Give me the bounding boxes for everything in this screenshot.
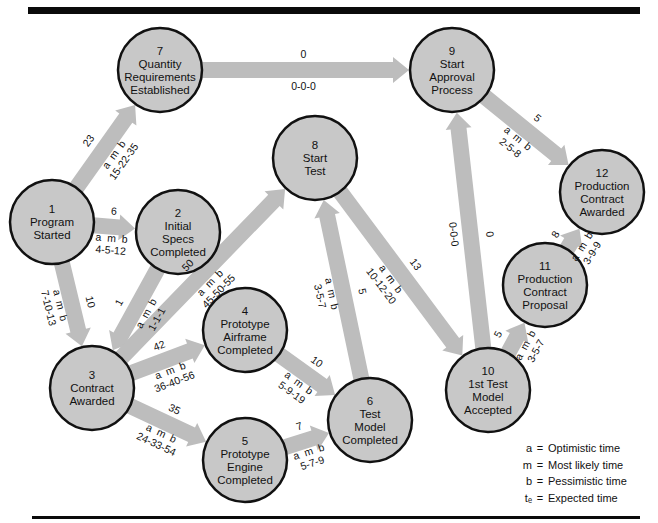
node-number: 2 (175, 207, 181, 219)
expected-time-label: 5 (491, 329, 504, 340)
legend-key: m (508, 457, 532, 474)
node-number: 8 (312, 139, 318, 151)
event-node-3: 3ContractAwarded (50, 346, 134, 430)
node-number: 5 (242, 435, 248, 447)
expected-time-label: 1 (112, 297, 125, 308)
node-label-line: Prototype (220, 318, 269, 330)
node-number: 11 (539, 260, 551, 272)
node-label-line: Specs (162, 233, 194, 245)
node-label-line: Requirements (124, 71, 196, 83)
node-number: 10 (482, 365, 495, 377)
node-number: 6 (367, 395, 373, 407)
event-node-5: 5PrototypeEngineCompleted (203, 418, 287, 502)
node-label-line: Program (30, 216, 74, 228)
node-label-line: Completed (342, 434, 398, 446)
node-label-line: Completed (217, 344, 273, 356)
expected-time-label: 13 (408, 256, 425, 273)
event-node-12: 12ProductionContractAwarded (560, 150, 644, 234)
legend-equals: = (532, 473, 548, 490)
expected-time-label: 23 (80, 132, 97, 149)
legend-text: Pessimistic time (548, 475, 627, 487)
node-number: 3 (89, 369, 95, 381)
node-number: 1 (49, 203, 55, 215)
node-label-line: Awarded (69, 395, 114, 407)
legend-key: a (508, 440, 532, 457)
node-label-line: 1st Test (468, 378, 508, 390)
node-label-line: Proposal (522, 299, 567, 311)
node-label-line: Contract (523, 286, 567, 298)
node-label-line: Accepted (464, 404, 512, 416)
event-node-8: 8StartTest (273, 116, 357, 200)
legend-row-b: b=Pessimistic time (508, 473, 627, 490)
node-label-line: Approval (429, 71, 474, 83)
node-label-line: Contract (70, 382, 114, 394)
legend: a=Optimistic time m=Most likely time b=P… (508, 440, 627, 506)
legend-equals: = (532, 440, 548, 457)
node-label-line: Production (575, 180, 630, 192)
node-label-line: Established (130, 84, 189, 96)
node-label-line: Airframe (223, 331, 266, 343)
node-label-line: Completed (150, 246, 206, 258)
legend-text: Most likely time (548, 459, 623, 471)
node-label-line: Quantity (139, 58, 182, 70)
legend-equals: = (532, 457, 548, 474)
amb-values: 4-5-12 (95, 243, 126, 257)
node-label-line: Engine (227, 461, 263, 473)
event-node-1: 1ProgramStarted (10, 180, 94, 264)
arrow-9-to-12 (476, 88, 568, 165)
expected-time-label: 7 (294, 419, 303, 432)
amb-estimate-label: a m b4-5-12 (94, 231, 128, 257)
amb-estimate-label: a m b3-5-7 (311, 277, 341, 314)
amb-estimate-label: 0-0-0 (447, 221, 462, 247)
legend-text: Expected time (548, 492, 618, 504)
event-node-7: 7QuantityRequirementsEstablished (118, 28, 202, 112)
event-node-9: 9StartApprovalProcess (410, 28, 494, 112)
event-node-6: 6TestModelCompleted (328, 378, 412, 462)
expected-time-label: 0 (301, 48, 307, 60)
node-label-line: Contract (580, 193, 624, 205)
legend-key: tₑ (508, 490, 532, 507)
node-label-line: Completed (217, 474, 273, 486)
legend-text: Optimistic time (548, 442, 620, 454)
amb-values: 0-0-0 (447, 221, 462, 247)
node-label-line: Start (440, 58, 465, 70)
legend-row-m: m=Most likely time (508, 457, 627, 474)
node-number: 7 (157, 45, 163, 57)
legend-row-a: a=Optimistic time (508, 440, 627, 457)
nodes-layer: 1ProgramStarted2InitialSpecsCompleted3Co… (10, 28, 644, 502)
node-label-line: Process (431, 84, 473, 96)
expected-time-label: 42 (151, 337, 166, 352)
node-number: 9 (449, 45, 455, 57)
node-label-line: Test (359, 408, 381, 420)
expected-time-label: 8 (548, 228, 561, 239)
node-label-line: Started (33, 229, 70, 241)
legend-key: b (508, 473, 532, 490)
node-label-line: Production (518, 273, 573, 285)
node-label-line: Awarded (579, 206, 624, 218)
event-node-10: 101st TestModelAccepted (446, 348, 530, 432)
expected-time-label: 10 (84, 295, 98, 309)
amb-values: 0-0-0 (291, 80, 316, 92)
node-number: 12 (596, 167, 609, 179)
legend-equals: = (532, 490, 548, 507)
expected-time-label: 5 (532, 111, 544, 124)
node-number: 4 (242, 305, 249, 317)
node-label-line: Model (472, 391, 503, 403)
expected-time-label: 5 (356, 287, 369, 295)
legend-row-te: tₑ=Expected time (508, 490, 627, 507)
expected-time-label: 35 (167, 401, 183, 417)
expected-time-label: 6 (111, 205, 118, 217)
node-label-line: Test (304, 165, 326, 177)
event-node-2: 2InitialSpecsCompleted (136, 190, 220, 274)
expected-time-label: 0 (484, 231, 497, 238)
amb-estimate-label: 0-0-0 (291, 80, 316, 92)
node-label-line: Prototype (220, 448, 269, 460)
node-label-line: Initial (165, 220, 192, 232)
expected-time-label: 10 (309, 353, 326, 370)
node-label-line: Start (303, 152, 328, 164)
node-label-line: Model (354, 421, 385, 433)
